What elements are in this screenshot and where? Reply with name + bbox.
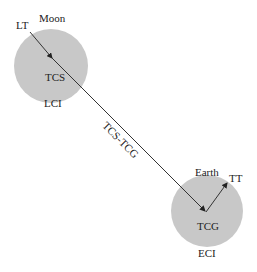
tcs-label: TCS — [45, 72, 65, 83]
lt-label: LT — [16, 20, 28, 31]
moon-body — [14, 29, 88, 103]
tt-label: TT — [229, 173, 242, 184]
eci-label: ECI — [198, 248, 216, 259]
earth-label: Earth — [195, 167, 219, 178]
moon-label: Moon — [39, 13, 65, 24]
tcg-label: TCG — [197, 221, 219, 232]
tcs-tcg-link — [52, 58, 205, 211]
lci-label: LCI — [44, 98, 62, 109]
